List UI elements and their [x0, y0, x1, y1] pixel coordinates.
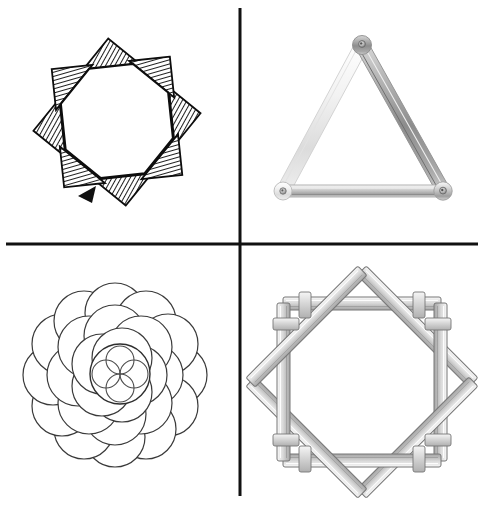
figure-plate: Geometric figure plate Eight-pointed hat… [0, 0, 490, 512]
panel-bottom-right[interactable] [242, 246, 490, 512]
panel-bottom-left[interactable] [0, 246, 240, 512]
panel-top-right[interactable] [242, 0, 490, 244]
panel-top-left[interactable] [0, 0, 240, 244]
